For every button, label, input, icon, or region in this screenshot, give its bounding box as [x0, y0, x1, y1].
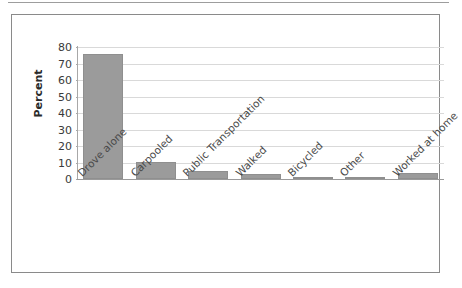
- bar-series: [77, 47, 444, 179]
- y-axis-tick-labels: 01020304050607080: [48, 47, 72, 179]
- bar: [293, 177, 333, 179]
- y-tick-label: 80: [50, 42, 72, 53]
- bar: [345, 177, 385, 179]
- top-horizontal-rule: [8, 2, 449, 3]
- y-tick-label: 10: [50, 157, 72, 168]
- bar: [83, 54, 123, 179]
- bar: [188, 171, 228, 179]
- y-tick-label: 70: [50, 58, 72, 69]
- y-tick-label: 0: [50, 174, 72, 185]
- y-tick-label: 60: [50, 75, 72, 86]
- y-tick-label: 30: [50, 124, 72, 135]
- figure-frame: Percent 01020304050607080 Drove aloneCar…: [11, 14, 440, 273]
- bar: [241, 174, 281, 179]
- bar: [398, 173, 438, 179]
- y-tick-label: 50: [50, 91, 72, 102]
- y-tick-label: 20: [50, 141, 72, 152]
- y-tick-label: 40: [50, 108, 72, 119]
- bar: [136, 162, 176, 179]
- y-axis-title: Percent: [32, 64, 45, 124]
- x-axis-baseline: [77, 179, 444, 180]
